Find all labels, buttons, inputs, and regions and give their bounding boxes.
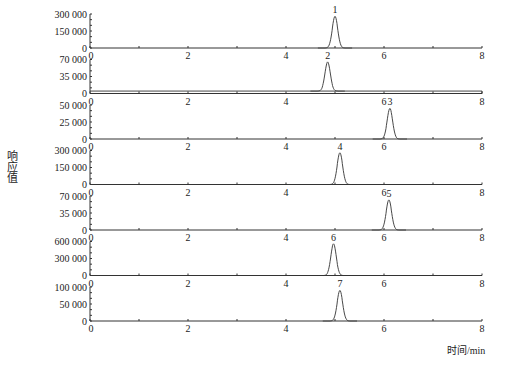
y-tick-label: 300 000 (55, 145, 88, 156)
peak-label: 7 (337, 278, 342, 289)
x-tick-label: 6 (382, 50, 387, 61)
y-tick-label: 35 000 (60, 71, 88, 82)
x-tick-label: 8 (480, 50, 485, 61)
peak-trace (323, 290, 357, 321)
x-tick-label: 6 (382, 96, 387, 107)
y-tick-label: 150 000 (55, 162, 88, 173)
x-tick-label: 0 (89, 323, 94, 334)
x-tick-label: 2 (186, 50, 191, 61)
y-tick-label: 150 000 (55, 26, 88, 37)
y-tick-label: 50 000 (60, 299, 88, 310)
y-axis-label: 响应值 (4, 150, 20, 183)
y-tick-label: 0 (82, 134, 87, 145)
x-tick-label: 8 (480, 232, 485, 243)
y-tick-label: 70 000 (60, 191, 88, 202)
x-tick-label: 8 (480, 278, 485, 289)
y-tick-label: 100 000 (55, 282, 88, 293)
x-tick-label: 2 (186, 187, 191, 198)
x-axis-label: 时间/min (447, 342, 485, 357)
x-tick-label: 6 (382, 141, 387, 152)
peak-label: 1 (333, 4, 338, 15)
x-tick-label: 6 (382, 323, 387, 334)
x-tick-label: 6 (382, 278, 387, 289)
y-tick-label: 600 000 (55, 236, 88, 247)
x-tick-label: 4 (284, 323, 289, 334)
y-tick-label: 0 (82, 316, 87, 327)
y-tick-label: 300 000 (55, 253, 88, 264)
x-tick-label: 8 (480, 141, 485, 152)
x-tick-label: 8 (480, 96, 485, 107)
x-tick-label: 2 (186, 232, 191, 243)
y-tick-label: 25 000 (60, 117, 88, 128)
x-tick-label: 2 (186, 323, 191, 334)
x-tick-label: 4 (284, 232, 289, 243)
peak-trace (323, 153, 357, 185)
peak-trace (311, 62, 345, 91)
x-tick-label: 4 (284, 278, 289, 289)
x-tick-label: 8 (480, 323, 485, 334)
x-tick-label: 4 (284, 187, 289, 198)
peak-label: 3 (387, 96, 392, 107)
x-tick-label: 4 (284, 50, 289, 61)
x-tick-label: 8 (480, 187, 485, 198)
y-tick-label: 0 (82, 270, 87, 281)
y-tick-label: 0 (82, 43, 87, 54)
y-tick-label: 50 000 (60, 100, 88, 111)
peak-trace (373, 108, 407, 139)
y-tick-label: 0 (82, 179, 87, 190)
chromatogram-figure: 0150 000300 000024681035 00070 000024682… (0, 0, 508, 373)
y-tick-label: 0 (82, 88, 87, 99)
peak-trace (372, 200, 406, 230)
peak-label: 2 (325, 50, 330, 61)
x-tick-label: 2 (186, 96, 191, 107)
y-tick-label: 70 000 (60, 54, 88, 65)
y-tick-label: 35 000 (60, 208, 88, 219)
peak-label: 6 (331, 232, 336, 243)
peak-trace (316, 244, 350, 276)
y-tick-label: 300 000 (55, 9, 88, 20)
x-tick-label: 4 (284, 96, 289, 107)
peak-label: 5 (386, 188, 391, 199)
peak-label: 4 (337, 141, 342, 152)
peak-trace (318, 16, 352, 48)
x-tick-label: 2 (186, 278, 191, 289)
x-tick-label: 6 (382, 232, 387, 243)
x-tick-label: 2 (186, 141, 191, 152)
y-tick-label: 0 (82, 225, 87, 236)
x-tick-label: 4 (284, 141, 289, 152)
